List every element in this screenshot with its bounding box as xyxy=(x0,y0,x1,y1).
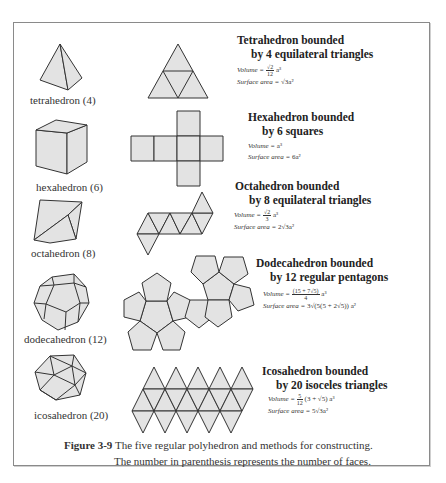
dodecahedron-formulas: Volume = (15 + 7√5)4 a³ Surface area = 3… xyxy=(263,288,356,312)
title-line1: Tetrahedron bounded xyxy=(237,34,344,46)
volume-label: Volume = xyxy=(263,290,290,298)
figure-caption-line2: The number in parenthesis represents the… xyxy=(114,453,371,469)
volume-tail: a³ xyxy=(321,290,326,298)
area-label: Surface area = xyxy=(263,302,305,310)
icosahedron-solid-icon xyxy=(35,355,86,400)
title-line1: Icosahedron bounded xyxy=(262,365,368,377)
numerator: √2 xyxy=(266,64,274,71)
hexahedron-net-icon xyxy=(131,111,223,186)
area-formula: Surface area = 5√3a² xyxy=(268,406,335,417)
area-label: Surface area = xyxy=(237,78,279,86)
dodecahedron-net-icon xyxy=(124,256,254,350)
area-value: 3√(5(5 + 2√5)) a² xyxy=(307,302,356,310)
title-line1: Dodecahedron bounded xyxy=(256,257,373,269)
hexahedron-label: hexahedron (6) xyxy=(36,181,103,193)
volume-formula: Volume = (15 + 7√5)4 a³ xyxy=(263,288,356,301)
volume-formula: Volume = √212 a³ xyxy=(237,64,294,77)
tetrahedron-title: Tetrahedron bounded by 4 equilateral tri… xyxy=(237,33,373,61)
title-line1: Hexahedron bounded xyxy=(248,111,354,123)
dodecahedron-title: Dodecahedron bounded by 12 regular penta… xyxy=(256,256,388,284)
numerator: √2 xyxy=(263,209,271,216)
octahedron-formulas: Volume = √23 a³ Surface area = 2√3a² xyxy=(234,209,294,233)
numerator: 5 xyxy=(297,393,303,400)
hexahedron-formulas: Volume = a³ Surface area = 6a² xyxy=(248,141,301,163)
volume-tail: (3 + √5) a³ xyxy=(305,395,335,403)
figure-caption-line1: Figure 3-9 The five regular polyhedron a… xyxy=(64,437,373,453)
volume-label: Volume = xyxy=(268,395,295,403)
area-label: Surface area = xyxy=(268,407,310,415)
fraction: √212 xyxy=(266,64,274,77)
volume-label: Volume = xyxy=(248,142,275,150)
volume-formula: Volume = a³ xyxy=(248,141,301,152)
numerator: (15 + 7√5) xyxy=(292,288,320,295)
octahedron-label: octahedron (8) xyxy=(31,247,95,259)
fraction: √23 xyxy=(263,209,271,222)
title-line2: by 20 isoceles triangles xyxy=(262,378,387,392)
area-value: 2√3a² xyxy=(278,223,294,231)
octahedron-net-icon xyxy=(137,192,213,255)
dodecahedron-label: dodecahedron (12) xyxy=(24,333,107,345)
title-line2: by 6 squares xyxy=(248,124,354,138)
tetrahedron-solid-icon xyxy=(40,44,82,90)
area-formula: Surface area = 2√3a² xyxy=(234,222,294,233)
title-line2: by 8 equilateral triangles xyxy=(235,193,371,207)
title-line1: Octahedron bounded xyxy=(235,180,339,192)
area-formula: Surface area = 3√(5(5 + 2√5)) a² xyxy=(263,301,356,312)
volume-value: a³ xyxy=(277,142,282,150)
caption-text: The five regular polyhedron and methods … xyxy=(115,439,373,451)
hexahedron-solid-icon xyxy=(36,120,87,174)
octahedron-title: Octahedron bounded by 8 equilateral tria… xyxy=(235,179,371,207)
volume-formula: Volume = √23 a³ xyxy=(234,209,294,222)
icosahedron-net-icon xyxy=(132,367,253,433)
tetrahedron-net-icon xyxy=(148,44,208,98)
area-value: 5√3a² xyxy=(312,407,328,415)
tetrahedron-formulas: Volume = √212 a³ Surface area = √3a² xyxy=(237,64,294,88)
tetrahedron-label: tetrahedron (4) xyxy=(30,94,96,106)
volume-label: Volume = xyxy=(234,211,261,219)
icosahedron-label: icosahedron (20) xyxy=(34,409,108,421)
icosahedron-title: Icosahedron bounded by 20 isoceles trian… xyxy=(262,364,387,392)
fraction: 512 xyxy=(297,393,303,406)
hexahedron-title: Hexahedron bounded by 6 squares xyxy=(248,110,354,138)
volume-label: Volume = xyxy=(237,66,264,74)
area-label: Surface area = xyxy=(234,223,276,231)
fraction: (15 + 7√5)4 xyxy=(292,288,320,301)
figure-label: Figure 3-9 xyxy=(64,439,112,451)
area-value: 6a² xyxy=(292,153,301,161)
dodecahedron-solid-icon xyxy=(34,274,89,330)
title-line2: by 12 regular pentagons xyxy=(256,270,388,284)
volume-tail: a³ xyxy=(273,211,278,219)
volume-formula: Volume = 512 (3 + √5) a³ xyxy=(268,393,335,406)
octahedron-solid-icon xyxy=(34,200,82,243)
icosahedron-formulas: Volume = 512 (3 + √5) a³ Surface area = … xyxy=(268,393,335,417)
area-value: √3a² xyxy=(281,78,294,86)
title-line2: by 4 equilateral triangles xyxy=(237,47,373,61)
volume-tail: a³ xyxy=(276,66,281,74)
area-label: Surface area = xyxy=(248,153,290,161)
area-formula: Surface area = √3a² xyxy=(237,77,294,88)
area-formula: Surface area = 6a² xyxy=(248,152,301,163)
